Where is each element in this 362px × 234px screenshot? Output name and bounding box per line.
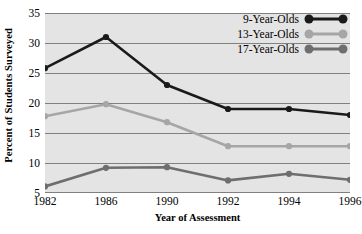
x-axis-tick-label: 1994 xyxy=(278,195,301,207)
legend-item: 13-Year-Olds xyxy=(196,26,348,41)
y-axis-tick-label: 30 xyxy=(29,37,41,49)
series-line xyxy=(45,167,350,186)
data-point xyxy=(286,106,292,112)
data-point xyxy=(225,106,231,112)
x-axis-tick-label: 1986 xyxy=(95,195,118,207)
data-point xyxy=(347,143,350,149)
x-axis-title: Year of Assessment xyxy=(45,212,350,223)
y-axis-tick-labels: 5101520253035 xyxy=(16,0,43,195)
y-axis-title: Percent of Students Surveyed xyxy=(0,0,16,190)
y-axis-tick-label: 15 xyxy=(29,127,41,139)
legend-swatch xyxy=(304,43,348,54)
x-axis-tick-label: 1982 xyxy=(34,195,57,207)
data-point xyxy=(347,177,350,183)
data-point xyxy=(103,34,109,40)
y-axis-title-text: Percent of Students Surveyed xyxy=(3,28,14,163)
data-point xyxy=(164,82,170,88)
legend-label: 9-Year-Olds xyxy=(243,13,299,25)
x-axis-tick-label: 1992 xyxy=(217,195,240,207)
y-axis-tick-label: 20 xyxy=(29,97,41,109)
x-axis-tick-label: 1990 xyxy=(156,195,179,207)
legend-item: 9-Year-Olds xyxy=(196,11,348,26)
legend-swatch xyxy=(304,28,348,39)
data-point xyxy=(164,119,170,125)
data-point xyxy=(103,101,109,107)
data-point xyxy=(286,171,292,177)
data-point xyxy=(45,113,48,119)
x-axis-tick-labels: 198219861990199219941996 xyxy=(45,195,350,213)
data-point xyxy=(286,143,292,149)
data-point xyxy=(225,177,231,183)
legend-label: 13-Year-Olds xyxy=(237,28,299,40)
chart-legend: 9-Year-Olds13-Year-Olds17-Year-Olds xyxy=(196,11,348,56)
legend-label: 17-Year-Olds xyxy=(237,43,299,55)
legend-item: 17-Year-Olds xyxy=(196,41,348,56)
x-axis-tick-label: 1996 xyxy=(339,195,362,207)
y-axis-tick-label: 10 xyxy=(29,157,41,169)
data-point xyxy=(45,183,48,189)
data-point xyxy=(103,165,109,171)
y-axis-tick-label: 25 xyxy=(29,67,41,79)
data-point xyxy=(225,143,231,149)
data-point xyxy=(164,164,170,170)
data-point xyxy=(347,112,350,118)
y-axis-tick-label: 35 xyxy=(29,7,41,19)
legend-swatch xyxy=(304,13,348,24)
